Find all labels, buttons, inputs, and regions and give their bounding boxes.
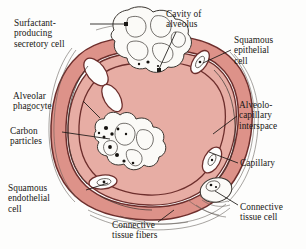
label-alveolo-capillary-interspace: Alveolo- capillary interspace bbox=[239, 100, 305, 131]
label-squamous-endothelial-cell: Squamous endothelial cell bbox=[8, 183, 88, 214]
label-squamous-epithelial-cell: Squamous epithelial cell bbox=[234, 35, 304, 66]
alveolus-diagram: .wall { fill:#dd9289; stroke:#6d2e2c; st… bbox=[0, 0, 306, 249]
label-carbon-particles: Carbon particles bbox=[10, 126, 72, 147]
label-connective-tissue-cell: Connective tissue cell bbox=[240, 202, 304, 223]
label-alveolar-phagocyte: Alveolar phagocyte bbox=[13, 91, 89, 112]
label-capillary: Capillary bbox=[240, 158, 304, 168]
label-cavity-of-alveolus: Cavity of alveolus bbox=[166, 9, 240, 30]
label-surfactant-secretory-cell: Surfactant- producing secretory cell bbox=[14, 18, 106, 49]
label-connective-tissue-fibers: Connective tissue fibers bbox=[112, 220, 196, 241]
